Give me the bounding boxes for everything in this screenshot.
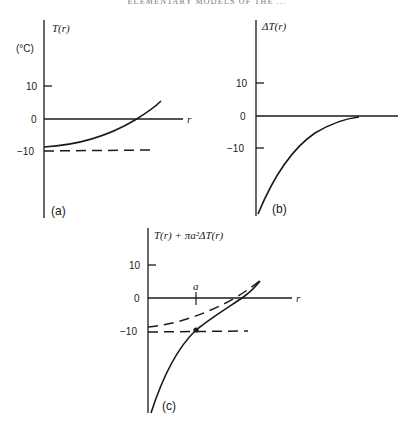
panel-a-x-title: r xyxy=(187,113,192,125)
panel-c-x-title: r xyxy=(296,292,301,304)
panel-c xyxy=(148,228,292,413)
panel-a-y-title: T(r) xyxy=(52,22,70,35)
panel-a-tick-label-10: 10 xyxy=(26,81,38,92)
panel-a-curve-T xyxy=(44,101,161,147)
panel-c-curve-combined xyxy=(151,281,260,413)
panel-a-unit: (°C) xyxy=(16,43,34,54)
panel-b-y-title: ΔT(r) xyxy=(261,20,287,33)
panel-a xyxy=(44,20,183,218)
panel-c-tick-label-10: 10 xyxy=(129,260,141,271)
panel-c-tick-label-m10: −10 xyxy=(120,326,137,337)
panel-b-tick-label-m10: −10 xyxy=(227,143,244,154)
panel-c-intersection-dot xyxy=(193,327,198,332)
panel-c-tick-label-0: 0 xyxy=(134,293,140,304)
figure: T(r) (°C) 10 0 −10 r (a) ΔT(r) 10 0 −10 … xyxy=(0,0,414,426)
panel-c-label: (c) xyxy=(162,399,176,413)
panel-b-label: (b) xyxy=(272,202,287,216)
panel-c-y-title: T(r) + πa²ΔT(r) xyxy=(154,229,223,242)
panel-c-curve-T-dashed xyxy=(148,279,262,327)
panel-a-tick-label-m10: −10 xyxy=(17,146,34,157)
panel-b xyxy=(256,20,398,216)
panel-a-tick-label-0: 0 xyxy=(31,114,37,125)
panel-b-curve-deltaT xyxy=(258,117,359,214)
panel-a-label: (a) xyxy=(51,204,66,218)
panel-c-marker-label: a xyxy=(193,280,199,292)
panel-a-dashed-ref xyxy=(44,150,150,151)
panel-b-tick-label-10: 10 xyxy=(236,78,248,89)
panel-b-tick-label-0: 0 xyxy=(240,111,246,122)
